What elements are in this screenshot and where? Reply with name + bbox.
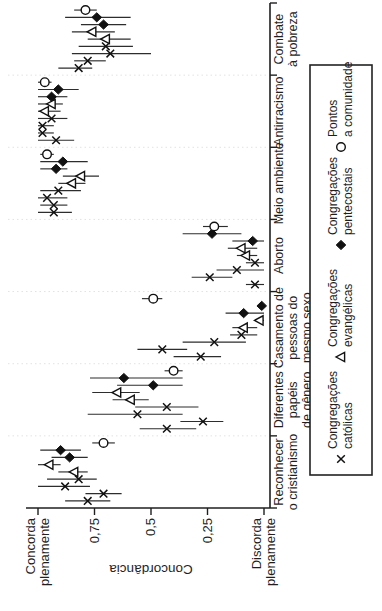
triangle-marker [76,172,85,181]
circle-marker [210,222,219,231]
value-tick-label: Concordaplenamente [23,517,52,586]
rotated-figure: Concordaplenamente0,750,50,25Discordaple… [0,0,382,611]
circle-marker [337,143,346,152]
circle-marker [81,6,90,15]
triangle-marker [69,467,78,476]
category-label: Aborto [272,237,286,274]
triangle-marker [87,27,96,36]
circle-marker [43,150,52,159]
triangle-marker [112,388,121,397]
category-label: Meio ambiente [272,142,286,224]
category-label: Diferentespapéisde gênero [272,371,314,428]
triangle-marker [254,316,263,325]
triangle-marker [44,460,53,469]
circle-marker [40,78,49,87]
y-axis-title: Concordância [109,562,193,577]
legend-label-congregacoes-pentecostais: Congregaçõespentecostais [326,157,355,235]
triangle-marker [40,107,49,116]
circle-marker [149,294,158,303]
diamond-marker [51,164,61,173]
triangle-marker [67,179,76,188]
diamond-marker [54,85,64,94]
diamond-marker [92,13,102,22]
triangle-marker [101,34,110,43]
diamond-marker [99,20,109,29]
figure-scan: Concordaplenamente0,750,50,25Discordaple… [0,0,382,611]
value-tick-label: 0,75 [87,518,102,543]
agreement-dotplot-chart: Concordaplenamente0,750,50,25Discordaple… [0,0,382,611]
category-label: Reconhecero cristianismo [272,434,300,510]
value-tick-label: 0,25 [200,518,215,543]
category-label: Antirracismo [272,76,286,146]
category-label: Combateà pobreza [272,11,300,67]
value-tick-label: 0,5 [143,518,158,536]
diamond-marker [119,373,129,382]
triangle-marker [236,244,245,253]
diamond-marker [239,309,249,318]
diamond-marker [56,446,66,455]
circle-marker [169,366,178,375]
diamond-marker [248,236,258,245]
diamond-marker [58,157,68,166]
diamond-marker [65,453,75,462]
diamond-marker [257,301,267,310]
category-label: Casamento depessoas domesmo sexo [272,287,314,368]
diamond-marker [148,381,158,390]
triangle-marker [239,323,248,332]
triangle-marker [126,395,135,404]
value-tick-label: Discordaplenamente [249,517,278,586]
circle-marker [99,439,108,448]
